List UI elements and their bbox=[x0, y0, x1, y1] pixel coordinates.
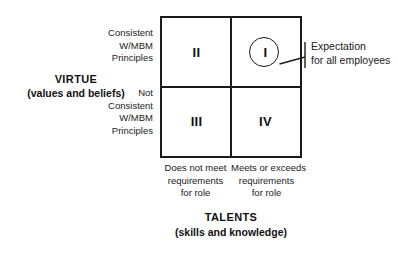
row-label-consistent-line-2: W/MBM bbox=[75, 40, 153, 53]
matrix-horizontal-divider bbox=[162, 86, 300, 88]
matrix-box: II I III IV bbox=[160, 16, 302, 158]
row-label-not-consistent-line-4: Principles bbox=[75, 125, 153, 138]
row-label-consistent-line-3: Principles bbox=[75, 52, 153, 65]
horizontal-axis-title-subtitle: (skills and knowledge) bbox=[130, 225, 332, 240]
quadrant-label-iii: III bbox=[191, 115, 203, 128]
callout-line-1: Expectation bbox=[311, 40, 397, 54]
column-label-does-not-meet-line-3: for role bbox=[160, 187, 231, 200]
column-label-does-not-meet: Does not meet requirements for role bbox=[160, 162, 231, 200]
horizontal-axis-title-main: TALENTS bbox=[130, 210, 332, 225]
column-label-meets-or-exceeds-line-3: for role bbox=[231, 187, 302, 200]
quadrant-cell-bottom-right: IV bbox=[231, 87, 300, 156]
row-label-not-consistent: Not Consistent W/MBM Principles bbox=[75, 87, 153, 137]
column-label-meets-or-exceeds-line-1: Meets or exceeds bbox=[231, 162, 302, 175]
row-label-consistent-line-1: Consistent bbox=[75, 27, 153, 40]
row-label-not-consistent-line-2: Consistent bbox=[75, 100, 153, 113]
quadrant-label-ii: II bbox=[193, 46, 201, 59]
quadrant-matrix-diagram: VIRTUE (values and beliefs) Consistent W… bbox=[0, 0, 398, 262]
column-label-does-not-meet-line-1: Does not meet bbox=[160, 162, 231, 175]
quadrant-label-iv: IV bbox=[259, 115, 272, 128]
quadrant-i-highlight-circle bbox=[249, 37, 279, 67]
quadrant-cell-top-left: II bbox=[162, 18, 231, 87]
row-label-not-consistent-line-3: W/MBM bbox=[75, 112, 153, 125]
row-label-consistent: Consistent W/MBM Principles bbox=[75, 27, 153, 65]
quadrant-cell-bottom-left: III bbox=[162, 87, 231, 156]
vertical-axis-title-main: VIRTUE bbox=[0, 72, 152, 86]
callout-expectation-text: Expectation for all employees bbox=[311, 40, 397, 67]
column-label-does-not-meet-line-2: requirements bbox=[160, 175, 231, 188]
column-label-meets-or-exceeds-line-2: requirements bbox=[231, 175, 302, 188]
row-label-not-consistent-line-1: Not bbox=[75, 87, 153, 100]
horizontal-axis-title: TALENTS (skills and knowledge) bbox=[130, 210, 332, 240]
column-label-meets-or-exceeds: Meets or exceeds requirements for role bbox=[231, 162, 302, 200]
callout-line-2: for all employees bbox=[311, 54, 397, 68]
